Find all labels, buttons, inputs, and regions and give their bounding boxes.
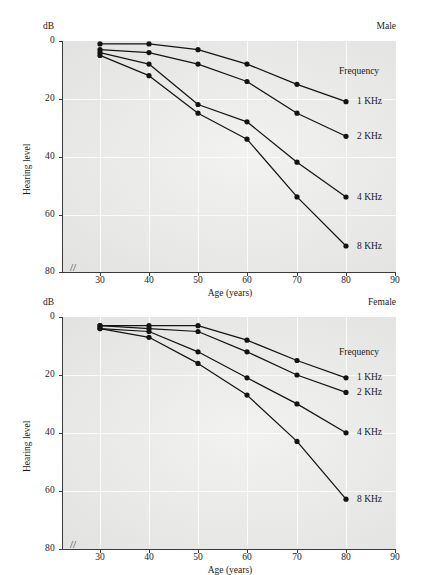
legend-item-1khz: 1 KHz [357, 372, 382, 382]
legend-item-8khz: 8 KHz [357, 241, 382, 251]
series-line-8khz [100, 329, 346, 500]
series-line-1khz [100, 326, 346, 378]
legend-item-4khz: 4 KHz [357, 427, 382, 437]
series-line-2khz [100, 50, 346, 137]
series-line-4khz [100, 53, 346, 197]
series-markers-8khz [97, 53, 348, 249]
legend-title-female: Frequency [339, 347, 379, 357]
series-line-8khz [100, 55, 346, 246]
series-markers-2khz [97, 323, 348, 395]
legend-item-1khz: 1 KHz [357, 96, 382, 106]
series-markers-8khz [97, 326, 348, 502]
chart-panel-male: 0 20 40 60 80 30 40 50 60 70 80 90 // dB… [0, 0, 425, 286]
legend-item-4khz: 4 KHz [357, 192, 382, 202]
series-markers-1khz [97, 323, 348, 380]
legend-title-male: Frequency [339, 66, 379, 76]
chart-panel-female: 0 20 40 60 80 30 40 50 60 70 80 90 // dB… [0, 287, 425, 573]
series-line-4khz [100, 329, 346, 433]
legend-item-8khz: 8 KHz [357, 494, 382, 504]
legend-item-2khz: 2 KHz [357, 387, 382, 397]
legend-item-2khz: 2 KHz [357, 131, 382, 141]
